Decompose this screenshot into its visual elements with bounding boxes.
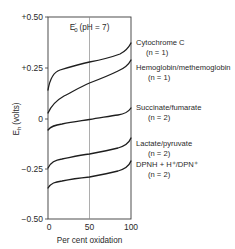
x-tick-label: 50 bbox=[85, 222, 95, 232]
y-tick-label: 0 bbox=[38, 114, 43, 124]
y-tick-label: −0.50 bbox=[21, 214, 43, 224]
series-label-cytochrome-c: Cytochrome C bbox=[136, 38, 185, 47]
y-tick-label: +0.25 bbox=[21, 63, 43, 73]
y-axis-title: Eh(volts) bbox=[12, 102, 22, 135]
y-tick-label: −0.25 bbox=[21, 164, 43, 174]
redox-potential-chart: +0.50 +0.25 0 −0.25 −0.50 0 50 100 Per c… bbox=[0, 0, 235, 249]
series-label-lactate: Lactate/pyruvate bbox=[136, 139, 192, 148]
series-n-label: (n = 2) bbox=[148, 149, 171, 158]
series-n-label: (n = 1) bbox=[146, 48, 169, 57]
x-tick-label: 100 bbox=[124, 222, 138, 232]
series-n-label: (n = 2) bbox=[148, 113, 171, 122]
x-tick-label: 0 bbox=[47, 222, 52, 232]
svg-text:Eh(volts): Eh(volts) bbox=[12, 102, 22, 135]
midpoint-annotation: E′0(pH = 7) bbox=[70, 22, 110, 33]
series-label-dpnh: DPNH + H⁺/DPN⁺ bbox=[136, 160, 198, 169]
series-n-label: (n = 2) bbox=[148, 170, 171, 179]
series-n-label: (n = 1) bbox=[148, 73, 171, 82]
y-tick-label: +0.50 bbox=[21, 12, 43, 22]
series-label-hemoglobin: Hemoglobin/methemoglobin bbox=[136, 63, 231, 72]
x-axis-title: Per cent oxidation bbox=[57, 236, 123, 245]
series-label-succinate: Succinate/fumarate bbox=[136, 103, 201, 112]
